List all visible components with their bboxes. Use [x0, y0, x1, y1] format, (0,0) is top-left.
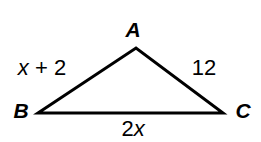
side-label-bc: 2x: [121, 118, 144, 140]
side-label-ac: 12: [192, 57, 216, 79]
vertex-label-c: C: [235, 100, 250, 121]
side-label-ab: x + 2: [18, 57, 66, 79]
geometry-diagram-canvas: A B C x + 2 12 2x: [0, 0, 261, 142]
side-label-ab-rest: + 2: [29, 55, 66, 80]
vertex-label-a: A: [125, 19, 140, 40]
side-label-ab-variable: x: [18, 55, 29, 80]
vertex-label-b: B: [13, 100, 28, 121]
side-label-bc-coefficient: 2: [121, 116, 133, 141]
side-label-bc-variable: x: [134, 116, 145, 141]
